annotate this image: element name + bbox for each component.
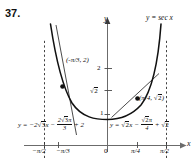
fraction-left: 2√3π 3	[57, 116, 72, 132]
curve-label-text: y = sec x	[146, 13, 173, 22]
y-axis	[105, 18, 111, 153]
sqrt-glyph: √2	[90, 87, 98, 95]
point-label-right: (π/4, √2)	[139, 94, 164, 102]
point-label-left: (-π/3, 2)	[66, 57, 89, 64]
tangent-equation-left: y = −2√3x − 2√3π 3 + 2	[18, 116, 84, 132]
graph-canvas	[0, 0, 195, 161]
x-tick-label-neg-pi-3: −π/3	[56, 148, 70, 155]
y-tick-label-2: 2	[97, 65, 101, 72]
x-tick-label-zero: 0	[104, 148, 108, 155]
y-axis-label: y	[104, 15, 108, 23]
x-axis-label: x	[187, 140, 191, 148]
y-tick-label-1: 1	[100, 110, 104, 117]
tangent-equation-right: y = √2x − √2π 4 + √2	[110, 116, 169, 132]
x-tick-label-neg-pi-2: −π/2	[32, 148, 46, 155]
x-tick-label-pi-4: π/4	[131, 148, 140, 155]
figure-container: 37.	[0, 0, 195, 161]
sqrt-glyph: √2	[154, 94, 162, 102]
x-axis-arrowhead	[180, 143, 187, 149]
y-tick-label-sqrt2: √2	[90, 87, 98, 95]
secant-curve	[51, 24, 162, 120]
fraction-right: √2π 4	[141, 116, 153, 132]
x-tick-label-pi-2: π/2	[160, 148, 169, 155]
curve-label: y = sec x	[146, 14, 173, 22]
y-tick-marks	[105, 69, 113, 115]
point-marker-left	[60, 84, 65, 89]
